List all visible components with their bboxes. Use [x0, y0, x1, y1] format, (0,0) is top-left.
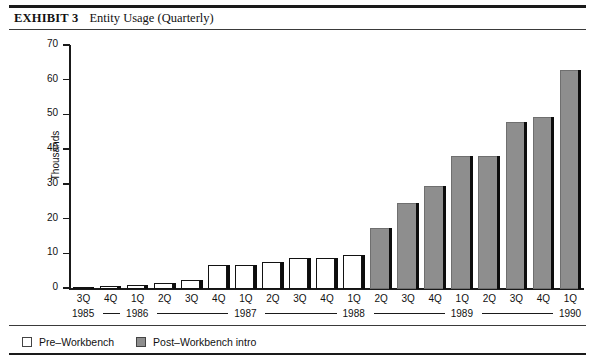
x-axis-quarter-label: 1Q — [123, 293, 153, 304]
x-axis-year-label: 1990 — [559, 308, 581, 319]
x-axis-quarter-label: 3Q — [501, 293, 531, 304]
bar-fill — [235, 265, 254, 289]
legend-item: Pre–Workbench — [22, 336, 114, 348]
x-axis-quarter-label: 3Q — [285, 293, 315, 304]
bar-fill — [397, 203, 416, 289]
x-axis-quarter-label: 3Q — [69, 293, 99, 304]
bar-fill — [478, 156, 497, 289]
x-axis-year-rule — [265, 313, 336, 314]
bar-fill — [451, 156, 470, 289]
y-axis-tick-label: 40 — [16, 142, 58, 153]
y-axis-tick-label: 20 — [16, 212, 58, 223]
y-axis-tick — [63, 114, 70, 116]
y-axis-tick-label: 60 — [16, 73, 58, 84]
bar-fill — [127, 285, 146, 290]
bar-post-4Q-1989 — [533, 117, 555, 289]
bar-pre-1Q-1988 — [343, 255, 365, 289]
bar-pre-4Q-1987 — [316, 258, 338, 289]
bar-fill — [262, 262, 281, 289]
x-axis-quarter-label: 4Q — [96, 293, 126, 304]
bar-fill — [343, 255, 362, 289]
x-axis-quarter-label: 4Q — [528, 293, 558, 304]
bar-pre-1Q-1987 — [235, 265, 257, 289]
bar-pre-3Q-1987 — [289, 258, 311, 289]
bar-fill — [560, 70, 579, 289]
x-axis-quarter-label: 3Q — [393, 293, 423, 304]
y-axis-tick-label: 50 — [16, 107, 58, 118]
x-axis-quarter-label: 2Q — [150, 293, 180, 304]
y-axis-tick — [63, 287, 70, 289]
y-axis-tick — [63, 44, 70, 46]
bar-fill — [316, 258, 335, 289]
legend-label: Pre–Workbench — [39, 336, 114, 348]
y-axis-tick — [63, 183, 70, 185]
bar-pre-3Q-1985 — [73, 287, 95, 289]
y-axis-tick-label: 70 — [16, 38, 58, 49]
y-axis-tick-label: 30 — [16, 177, 58, 188]
chart-legend: Pre–WorkbenchPost–Workbench intro — [22, 333, 278, 351]
x-axis-year-rule — [103, 313, 120, 314]
x-axis-year-label: 1987 — [234, 308, 256, 319]
bar-post-4Q-1988 — [424, 186, 446, 289]
exhibit-figure: EXHIBIT 3 Entity Usage (Quarterly) Thous… — [0, 0, 595, 360]
bar-fill — [533, 117, 552, 289]
y-axis-tick-label: 0 — [16, 281, 58, 292]
bar-series-container — [70, 45, 584, 289]
bar-pre-3Q-1986 — [181, 280, 203, 289]
x-axis-quarter-label: 3Q — [177, 293, 207, 304]
y-axis-tick — [63, 218, 70, 220]
y-axis-tick — [63, 79, 70, 81]
bar-pre-2Q-1986 — [154, 283, 176, 289]
x-axis-quarter-label: 1Q — [231, 293, 261, 304]
bar-post-2Q-1988 — [370, 228, 392, 289]
bar-post-3Q-1988 — [397, 203, 419, 289]
bar-fill — [154, 283, 173, 289]
bar-pre-1Q-1986 — [127, 285, 149, 290]
bar-pre-2Q-1987 — [262, 262, 284, 289]
bar-fill — [370, 228, 389, 289]
bar-fill — [100, 286, 119, 289]
x-axis-year-rule — [482, 313, 553, 314]
x-axis-quarter-label: 2Q — [474, 293, 504, 304]
legend-item: Post–Workbench intro — [136, 336, 256, 348]
bar-fill — [289, 258, 308, 289]
x-axis-quarter-label: 2Q — [366, 293, 396, 304]
x-axis-year-rule — [157, 313, 228, 314]
bar-post-2Q-1989 — [478, 156, 500, 289]
bar-post-3Q-1989 — [506, 122, 528, 289]
legend-swatch-post — [136, 337, 146, 347]
legend-swatch-pre — [22, 337, 32, 347]
legend-rule — [9, 325, 586, 326]
x-axis-year-rule — [374, 313, 445, 314]
bar-post-1Q-1989 — [451, 156, 473, 289]
y-axis-tick — [63, 148, 70, 150]
bottom-rule — [9, 353, 586, 355]
x-axis-quarter-label: 4Q — [204, 293, 234, 304]
bar-fill — [208, 265, 227, 289]
legend-label: Post–Workbench intro — [153, 336, 256, 348]
x-axis-quarter-label: 1Q — [447, 293, 477, 304]
bar-fill — [73, 287, 92, 289]
x-axis-quarter-label: 4Q — [312, 293, 342, 304]
bar-pre-4Q-1986 — [208, 265, 230, 289]
bar-fill — [181, 280, 200, 289]
bar-pre-4Q-1985 — [100, 286, 122, 289]
bar-post-1Q-1990 — [560, 70, 582, 289]
x-axis-year-label: 1985 — [72, 308, 94, 319]
bar-fill — [506, 122, 525, 289]
x-axis-quarter-label: 2Q — [258, 293, 288, 304]
x-axis-year-label: 1989 — [451, 308, 473, 319]
x-axis-quarter-label: 1Q — [339, 293, 369, 304]
y-axis-tick — [63, 253, 70, 255]
y-axis-tick-label: 10 — [16, 246, 58, 257]
chart-plot-area: Thousands 010203040506070 3Q4Q1Q2Q3Q4Q1Q… — [0, 0, 595, 360]
x-axis-year-label: 1986 — [126, 308, 148, 319]
bar-fill — [424, 186, 443, 289]
x-axis-quarter-label: 1Q — [555, 293, 585, 304]
x-axis-year-label: 1988 — [343, 308, 365, 319]
x-axis-quarter-label: 4Q — [420, 293, 450, 304]
